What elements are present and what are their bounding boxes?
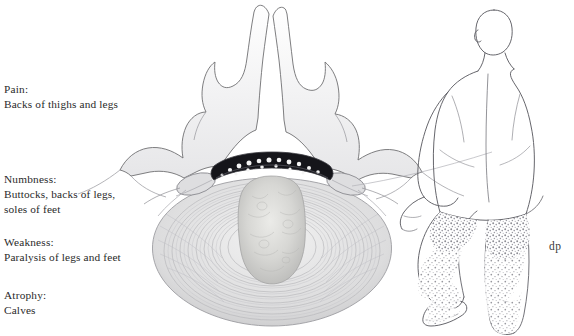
figure-head xyxy=(476,10,512,55)
nucleus-pulposus-herniation xyxy=(238,176,305,284)
anatomical-artwork xyxy=(0,0,574,336)
spinous-process xyxy=(120,5,269,178)
figure-neck xyxy=(478,53,485,71)
figure-left-arm xyxy=(418,92,458,206)
figure-torso xyxy=(433,69,534,220)
figure-left-hand xyxy=(400,197,424,229)
herniated-intervertebral-disc xyxy=(152,176,391,326)
artist-signature: dp xyxy=(549,240,561,252)
dermatome-stipple-shading xyxy=(418,212,530,334)
stipple-buttock-left xyxy=(430,212,478,253)
illustration-canvas: Pain: Backs of thighs and legs Numbness:… xyxy=(0,0,574,336)
figure-spine-groove xyxy=(486,74,489,202)
